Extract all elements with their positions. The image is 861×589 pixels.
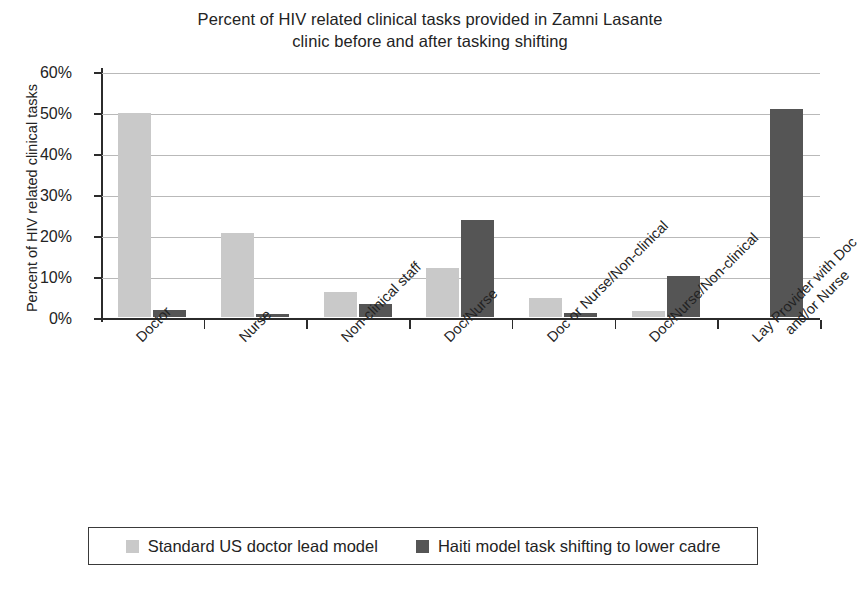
x-tick-mark [512,320,514,329]
y-tick-label: 0% [12,310,72,328]
bar [426,268,459,317]
y-tick-mark [94,318,102,320]
y-tick-label: 40% [12,146,72,164]
bar [118,113,151,317]
legend-label: Standard US doctor lead model [148,537,378,556]
bar-group [101,71,204,317]
x-tick-mark [820,320,822,329]
legend-swatch-light [126,540,139,553]
legend-item[interactable]: Haiti model task shifting to lower cadre [416,537,720,556]
chart-title-line-2: clinic before and after tasking shifting [120,30,740,52]
chart-legend: Standard US doctor lead modelHaiti model… [88,527,758,565]
y-tick-label: 30% [12,187,72,205]
x-tick-mark [306,320,308,329]
legend-label: Haiti model task shifting to lower cadre [438,537,720,556]
chart-title-line-1: Percent of HIV related clinical tasks pr… [120,8,740,30]
y-tick-label: 50% [12,105,72,123]
x-tick-mark [204,320,206,329]
y-tick-label: 20% [12,228,72,246]
x-tick-mark [409,320,411,329]
x-tick-mark [615,320,617,329]
bar-group [409,71,512,317]
y-tick-label: 60% [12,64,72,82]
chart-title: Percent of HIV related clinical tasks pr… [120,8,740,53]
bar-group [204,71,307,317]
y-tick-label: 10% [12,269,72,287]
legend-swatch-dark [416,540,429,553]
bar [324,292,357,317]
bar [221,233,254,317]
legend-item[interactable]: Standard US doctor lead model [126,537,378,556]
plot-area: 0%10%20%30%40%50%60% DoctorNurseNon-clin… [101,71,820,319]
x-tick-mark [717,320,719,329]
bar [529,298,562,317]
